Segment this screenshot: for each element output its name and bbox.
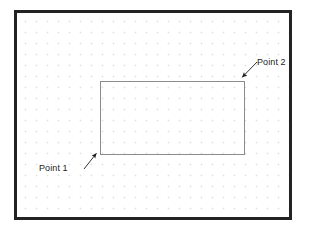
figure-canvas: Point 2 Point 1 [0,0,311,233]
label-point-1: Point 1 [39,163,68,174]
label-point-2: Point 2 [257,57,286,68]
drawn-rectangle[interactable] [100,81,245,155]
drawing-frame [14,10,292,220]
